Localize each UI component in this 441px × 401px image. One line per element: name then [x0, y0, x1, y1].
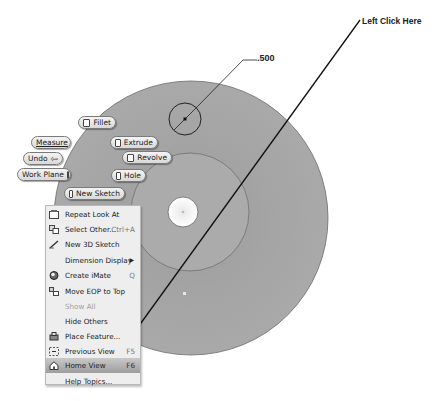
context-menu: Repeat Look At Select Other... Ctrl+A Ne…: [45, 205, 141, 385]
select-other-icon: [49, 225, 59, 234]
fillet-button[interactable]: Fillet: [78, 116, 116, 129]
menu-item-help-topics[interactable]: Help Topics...: [46, 374, 140, 389]
revolve-button[interactable]: Revolve: [122, 151, 172, 164]
sketch-center-point: [184, 118, 187, 121]
hole-button[interactable]: Hole: [111, 169, 146, 182]
undo-label: Undo: [28, 154, 48, 163]
fillet-label: Fillet: [93, 118, 111, 127]
submenu-arrow-icon: ▶: [129, 256, 134, 263]
menu-item-home-view[interactable]: Home View F6: [46, 358, 140, 373]
new-sketch-icon: [69, 190, 73, 198]
menu-item-hotkey: F6: [126, 361, 135, 370]
menu-item-move-eop-to-top[interactable]: Move EOP to Top: [46, 284, 140, 299]
undo-arrow-icon: ⇦: [51, 155, 59, 163]
extrude-button[interactable]: Extrude: [110, 136, 158, 149]
menu-item-label: Previous View: [65, 347, 115, 356]
undo-button[interactable]: Undo ⇦: [23, 152, 63, 165]
measure-label: Measure: [36, 138, 68, 147]
menu-item-label: Hide Others: [65, 317, 108, 326]
fillet-icon: [83, 119, 90, 127]
home-view-icon: [49, 361, 59, 370]
menu-item-label: Show All: [65, 302, 96, 311]
menu-item-hotkey: Ctrl+A: [111, 225, 135, 234]
menu-item-label: New 3D Sketch: [65, 240, 120, 249]
hole-label: Hole: [124, 171, 141, 180]
menu-item-place-feature[interactable]: Place Feature...: [46, 329, 140, 344]
extrude-icon: [115, 139, 121, 147]
look-at-icon: [49, 210, 59, 219]
menu-item-label: Move EOP to Top: [65, 287, 125, 296]
menu-item-label: Home View: [65, 361, 106, 370]
menu-item-hotkey: Q: [129, 271, 135, 280]
extrude-label: Extrude: [124, 138, 153, 147]
menu-item-label: Repeat Look At: [65, 210, 119, 219]
menu-item-label: Create iMate: [65, 271, 111, 280]
work-plane-icon: [67, 171, 69, 179]
revolve-label: Revolve: [137, 153, 167, 162]
menu-item-label: Help Topics...: [65, 377, 112, 386]
menu-item-repeat-look-at[interactable]: Repeat Look At: [46, 207, 140, 222]
menu-item-hotkey: F5: [126, 347, 135, 356]
new-sketch-label: New Sketch: [76, 189, 120, 198]
place-feature-icon: [49, 332, 59, 341]
work-plane-button[interactable]: Work Plane: [17, 168, 71, 181]
measure-button[interactable]: Measure: [31, 136, 71, 149]
revolve-icon: [127, 154, 134, 162]
menu-item-label: Place Feature...: [65, 332, 120, 341]
work-plane-label: Work Plane: [22, 170, 64, 179]
center-point: [182, 211, 185, 214]
eop-icon: [49, 287, 59, 296]
callout-label: Left Click Here: [362, 16, 422, 26]
menu-item-create-imate[interactable]: Create iMate Q: [46, 268, 140, 283]
previous-view-icon: [49, 347, 59, 356]
dimension-value[interactable]: .500: [257, 53, 275, 63]
menu-item-label: Dimension Display: [65, 256, 132, 265]
menu-item-select-other[interactable]: Select Other... Ctrl+A: [46, 222, 140, 237]
3d-sketch-icon: [49, 240, 59, 249]
menu-item-show-all[interactable]: Show All: [46, 299, 140, 314]
work-point: [183, 292, 186, 295]
menu-item-new-3d-sketch[interactable]: New 3D Sketch: [46, 237, 140, 252]
menu-item-label: Select Other...: [65, 225, 116, 234]
new-sketch-button[interactable]: New Sketch: [64, 187, 125, 200]
menu-item-previous-view[interactable]: Previous View F5: [46, 344, 140, 359]
hole-icon: [116, 172, 121, 180]
menu-item-dimension-display[interactable]: Dimension Display ▶: [46, 253, 140, 268]
menu-item-hide-others[interactable]: Hide Others: [46, 314, 140, 329]
imate-icon: [49, 271, 59, 280]
